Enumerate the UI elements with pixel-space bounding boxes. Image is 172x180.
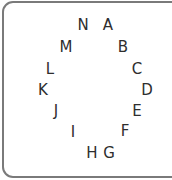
letter-a: A [103, 18, 113, 33]
letter-h: H [86, 146, 97, 161]
letter-j: J [54, 104, 58, 119]
letter-i: I [71, 125, 75, 140]
letter-m: M [60, 40, 73, 55]
letter-e: E [132, 104, 141, 119]
letter-l: L [46, 62, 54, 77]
letter-b: B [118, 40, 128, 55]
letter-f: F [121, 124, 130, 139]
letter-k: K [38, 83, 48, 98]
letter-n: N [77, 18, 88, 33]
letter-d: D [141, 83, 153, 98]
letter-g: G [103, 146, 115, 161]
letter-c: C [132, 62, 142, 77]
